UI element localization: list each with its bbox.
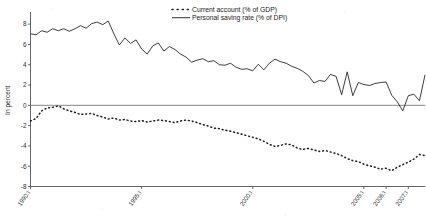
x-axis-tick-label: 1995:I (127, 189, 143, 207)
x-axis-tick-label: 1990:I (16, 189, 32, 207)
x-axis-tick-label: 2000:I (238, 189, 254, 207)
y-axis-tick-label: 0 (23, 102, 27, 109)
legend-label: Personal saving rate (% of DPI) (192, 14, 287, 22)
y-axis-tick-label: 2 (23, 81, 27, 88)
x-axis-tick-label: 2005:I (349, 189, 365, 207)
y-axis-tick-label: -2 (21, 122, 27, 129)
y-axis-title: In percent (4, 85, 12, 114)
x-axis-tick-label: 2007:I (394, 189, 410, 207)
legend-label: Current account (% of GDP) (192, 6, 277, 14)
line-chart: 86420-2-4-6-8In percent1990:I1995:I2000:… (0, 0, 426, 224)
y-axis-tick-label: -4 (21, 142, 27, 149)
y-axis-tick-label: -8 (21, 183, 27, 190)
chart-legend: Current account (% of GDP)Personal savin… (172, 6, 287, 22)
y-axis-tick-label: 8 (23, 20, 27, 27)
y-axis-tick-label: 6 (23, 41, 27, 48)
series-line-1 (31, 106, 426, 171)
x-axis-tick-label: 2006:I (371, 189, 387, 207)
y-axis-tick-label: 4 (23, 61, 27, 68)
series-line-2 (31, 21, 426, 111)
y-axis-tick-label: -6 (21, 163, 27, 170)
chart-container: 86420-2-4-6-8In percent1990:I1995:I2000:… (0, 0, 426, 224)
